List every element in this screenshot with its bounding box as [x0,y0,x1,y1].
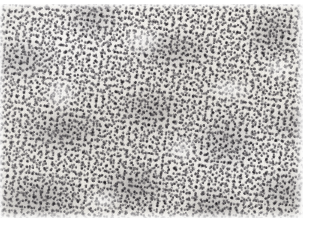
film-grain-texture [0,4,303,218]
photomicrograph-image [0,4,303,218]
screenshot-viewport: Dense field of dark-stained spherical ba… [0,0,315,226]
